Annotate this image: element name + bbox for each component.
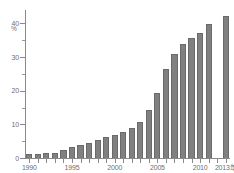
- y-axis-tick-label: 20: [1, 87, 19, 94]
- bar: [188, 38, 194, 158]
- x-axis-tick: [209, 159, 210, 163]
- x-axis-tick: [149, 159, 150, 163]
- x-axis-tick: [132, 159, 133, 163]
- x-axis-tick: [183, 159, 184, 163]
- bar: [154, 93, 160, 158]
- bar: [103, 137, 109, 158]
- bar: [171, 54, 177, 158]
- bar: [60, 150, 66, 158]
- x-axis-tick: [55, 159, 56, 163]
- x-axis-tick-label: 2013年: [215, 164, 234, 172]
- bar: [69, 147, 75, 158]
- bar: [120, 132, 126, 158]
- x-axis-tick: [29, 159, 30, 163]
- x-axis-tick: [123, 159, 124, 163]
- x-axis-tick: [174, 159, 175, 163]
- x-axis-tick: [157, 159, 158, 163]
- x-axis-tick-label: 2005: [150, 164, 165, 172]
- bar-chart: % 010203040 199019952000200520102013年: [0, 0, 234, 173]
- x-axis-tick: [72, 159, 73, 163]
- x-axis-tick: [106, 159, 107, 163]
- y-axis-tick-label: 40: [1, 20, 19, 27]
- bar: [137, 122, 143, 158]
- x-axis-tick: [38, 159, 39, 163]
- x-axis-tick-label: 2010: [193, 164, 208, 172]
- bar: [197, 33, 203, 158]
- bar: [112, 135, 118, 158]
- x-axis-tick: [63, 159, 64, 163]
- bar: [206, 24, 212, 158]
- x-axis-tick: [140, 159, 141, 163]
- plot-area: [25, 10, 230, 158]
- bar: [95, 140, 101, 159]
- bar: [129, 128, 135, 158]
- bar: [223, 16, 229, 158]
- x-axis-tick-label: 1990: [22, 164, 37, 172]
- x-axis-tick: [115, 159, 116, 163]
- bar: [86, 143, 92, 158]
- y-axis-tick-label: 30: [1, 54, 19, 61]
- x-axis-tick: [89, 159, 90, 163]
- x-axis-tick: [217, 159, 218, 163]
- bar: [146, 110, 152, 158]
- x-axis-tick: [46, 159, 47, 163]
- x-axis-tick: [166, 159, 167, 163]
- y-axis-tick-label: 0: [1, 155, 19, 162]
- y-axis-tick-label: 10: [1, 121, 19, 128]
- bar: [77, 145, 83, 158]
- bar: [180, 44, 186, 158]
- x-axis-tick: [81, 159, 82, 163]
- x-axis-tick-label: 2000: [107, 164, 122, 172]
- x-axis-tick-label: 1995: [65, 164, 80, 172]
- x-axis-tick: [226, 159, 227, 163]
- x-axis-tick: [192, 159, 193, 163]
- x-axis-tick: [98, 159, 99, 163]
- x-axis-tick: [200, 159, 201, 163]
- bar: [163, 69, 169, 158]
